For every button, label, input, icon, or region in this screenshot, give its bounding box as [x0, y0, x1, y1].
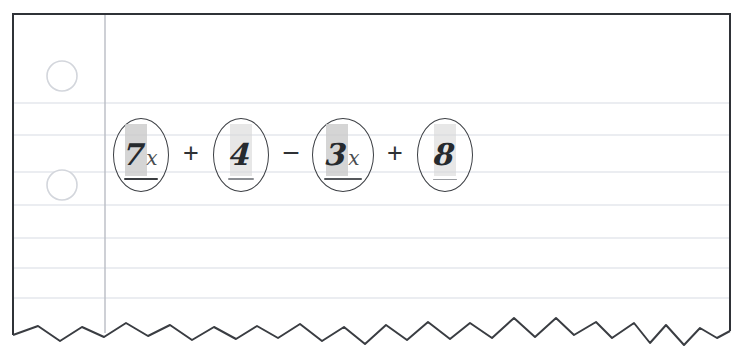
coefficient-3: 3: [325, 140, 348, 170]
term-8[interactable]: 8: [414, 116, 476, 194]
term-3x[interactable]: 3 x: [310, 116, 376, 194]
variable-x: x: [146, 148, 157, 168]
term-4[interactable]: 4: [210, 116, 272, 194]
operator-minus: −: [272, 138, 310, 172]
variable-x: x: [348, 148, 359, 168]
operator-plus-1: +: [172, 140, 210, 171]
operator-plus-2: +: [376, 140, 414, 171]
underline-annotation: [433, 179, 457, 181]
coefficient-4: 4: [229, 140, 252, 170]
term-7x[interactable]: 7 x: [110, 116, 172, 194]
coefficient-7: 7: [123, 140, 146, 170]
hole-punch: [47, 61, 77, 91]
underline-annotation: [228, 178, 254, 180]
coefficient-8: 8: [433, 140, 456, 170]
notebook-page-scene: 7 x + 4 − 3 x +: [0, 0, 736, 358]
algebraic-expression: 7 x + 4 − 3 x +: [110, 116, 476, 194]
hole-punch: [47, 170, 77, 200]
underline-annotation: [324, 178, 362, 180]
